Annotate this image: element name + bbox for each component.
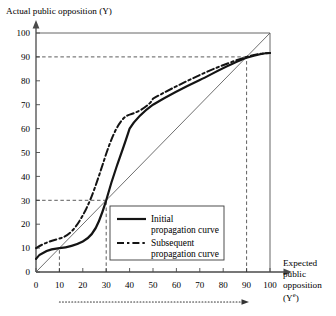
x-axis-title-line4: (Ye) xyxy=(283,291,299,303)
x-tick-label: 90 xyxy=(242,280,252,290)
y-axis-arrowhead xyxy=(33,20,40,29)
x-tick-label: 50 xyxy=(149,280,159,290)
x-tick-label: 80 xyxy=(219,280,229,290)
x-tick-label: 100 xyxy=(263,280,277,290)
y-tick-label: 80 xyxy=(21,76,31,86)
y-tick-label: 90 xyxy=(21,52,31,62)
x-axis-title-symbol-base: (Y xyxy=(283,293,293,303)
x-axis-title: Expected public opposition (Ye) xyxy=(283,258,322,303)
legend-label-subsequent-line1: Subsequent xyxy=(151,238,195,248)
x-tick-label: 10 xyxy=(55,280,65,290)
x-tick-label: 30 xyxy=(102,280,112,290)
y-tick-label: 40 xyxy=(21,172,31,182)
x-tick-label: 70 xyxy=(195,280,205,290)
y-tick-label: 70 xyxy=(21,100,31,110)
figure-container: Actual public opposition (Y) 0 10 20 30 … xyxy=(0,0,336,316)
y-tick-label: 50 xyxy=(21,148,31,158)
x-tick-label: 60 xyxy=(172,280,182,290)
y-tick-label: 30 xyxy=(21,196,31,206)
x-axis-title-symbol-close: ) xyxy=(296,293,299,303)
x-axis-title-line3: opposition xyxy=(283,280,322,290)
y-tick-label: 100 xyxy=(17,28,31,38)
y-tick-label: 10 xyxy=(21,243,31,253)
legend-label-initial-line1: Initial xyxy=(151,214,174,224)
dotted-arrow-head xyxy=(242,299,250,305)
legend-label-initial-line2: propagation curve xyxy=(151,225,219,235)
y-tick-label: 20 xyxy=(21,219,31,229)
y-axis-title: Actual public opposition (Y) xyxy=(6,6,112,16)
x-tick-label: 40 xyxy=(125,280,135,290)
y-tick-label: 0 xyxy=(26,267,31,277)
x-axis-title-line2: public xyxy=(283,269,306,279)
legend-label-subsequent-line2: propagation curve xyxy=(151,249,219,259)
x-tick-label: 0 xyxy=(34,280,39,290)
bottom-dotted-arrow xyxy=(59,299,249,305)
propagation-curve-chart: Actual public opposition (Y) 0 10 20 30 … xyxy=(0,0,336,316)
x-axis-title-line1: Expected xyxy=(283,258,318,268)
y-tick-label: 60 xyxy=(21,124,31,134)
x-tick-label: 20 xyxy=(78,280,88,290)
chart-legend: Initial propagation curve Subsequent pro… xyxy=(110,206,224,260)
x-axis-ticks: 0 10 20 30 40 50 60 70 80 90 100 xyxy=(34,268,278,290)
